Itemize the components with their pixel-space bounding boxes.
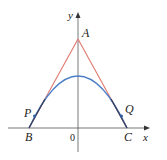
y-axis-arrow-icon: [76, 12, 81, 18]
overlap-segment-left: [29, 99, 45, 128]
point-Q-marker: [120, 115, 123, 118]
x-axis-label: x: [142, 131, 148, 143]
point-Q-label: Q: [125, 102, 134, 116]
point-A-label: A: [81, 26, 90, 40]
origin-label: 0: [70, 132, 75, 143]
point-B-label: B: [25, 130, 33, 144]
point-P-marker: [33, 115, 36, 118]
point-P-label: P: [23, 106, 32, 120]
x-axis-arrow-icon: [144, 126, 150, 131]
parabola-tangent-diagram: y x 0 A B C P Q: [0, 0, 167, 160]
point-C-label: C: [124, 130, 133, 144]
y-axis-label: y: [67, 9, 73, 21]
